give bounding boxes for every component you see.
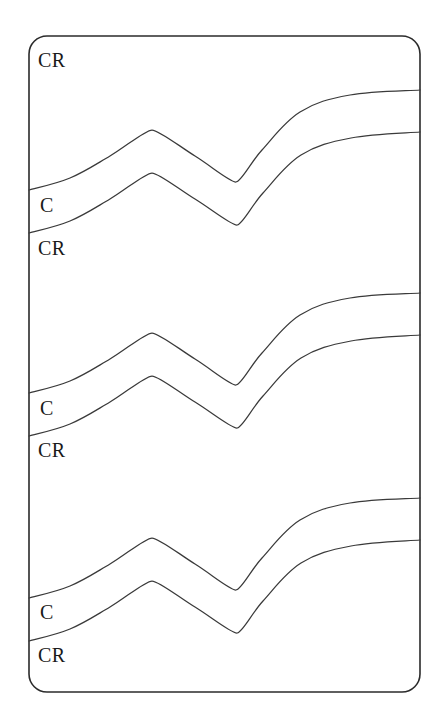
figure-frame-border — [29, 36, 420, 692]
horizon-curve-group-3-lower — [29, 540, 420, 641]
horizon-curve-group-1-upper — [29, 90, 420, 190]
horizon-curve-group-2-lower — [29, 335, 420, 436]
band-label-c-6: C — [40, 602, 54, 622]
band-label-c-2: C — [40, 195, 54, 215]
band-label-cr-5: CR — [38, 440, 66, 460]
frame-group — [29, 36, 420, 692]
figure-container: CRCCRCCRCCR — [0, 0, 440, 728]
horizon-curves-group — [29, 90, 420, 641]
horizon-curve-group-2-upper — [29, 293, 420, 393]
band-label-c-4: C — [40, 398, 54, 418]
band-label-cr-1: CR — [38, 50, 66, 70]
horizon-curve-group-3-upper — [29, 498, 420, 598]
band-label-cr-3: CR — [38, 238, 66, 258]
horizon-curve-group-1-lower — [29, 132, 420, 233]
stratigraphic-section-svg — [0, 0, 440, 728]
band-label-cr-7: CR — [38, 645, 66, 665]
